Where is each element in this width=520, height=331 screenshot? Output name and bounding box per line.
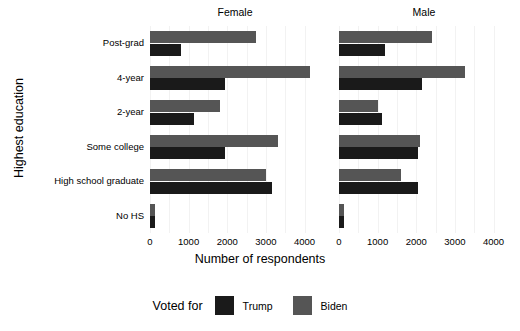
bar-female-some-college-trump xyxy=(150,147,225,159)
bar-female-some-college-biden xyxy=(150,135,278,147)
bar-male-some-college-biden xyxy=(339,135,420,147)
grid-line xyxy=(378,26,379,233)
bar-female-4-year-biden xyxy=(150,66,310,78)
grid-line xyxy=(208,26,209,233)
bar-female-2-year-trump xyxy=(150,113,194,125)
bar-male-2-year-biden xyxy=(339,100,378,112)
x-tick-label: 4000 xyxy=(474,236,514,247)
facet-title-male: Male xyxy=(339,6,509,22)
legend-item-biden[interactable]: Biden xyxy=(293,296,360,315)
bar-female-2-year-biden xyxy=(150,100,220,112)
x-tick-label: 1000 xyxy=(358,236,398,247)
panel-male xyxy=(339,26,509,233)
bar-male-4-year-trump xyxy=(339,78,422,90)
legend-swatch-trump xyxy=(215,296,234,315)
y-tick-label: 2-year xyxy=(117,106,144,117)
x-tick-label: 1000 xyxy=(169,236,209,247)
chart-legend: Voted for TrumpBiden xyxy=(0,296,520,315)
grid-line xyxy=(285,26,286,233)
y-tick-label: Post-grad xyxy=(103,37,144,48)
x-tick-label: 2000 xyxy=(207,236,247,247)
legend-label-trump: Trump xyxy=(243,300,273,312)
y-axis-tick-labels: Post-grad4-year2-yearSome collegeHigh sc… xyxy=(18,0,144,331)
panel-female xyxy=(150,26,320,233)
bar-female-high-school-graduate-biden xyxy=(150,169,266,181)
chart-figure: Highest education Post-grad4-year2-yearS… xyxy=(0,0,520,331)
bar-male-2-year-trump xyxy=(339,113,382,125)
bar-female-post-grad-trump xyxy=(150,44,181,56)
y-tick-label: 4-year xyxy=(117,72,144,83)
grid-line xyxy=(474,26,475,233)
grid-line xyxy=(339,26,340,233)
bar-female-post-grad-biden xyxy=(150,31,256,43)
legend-item-trump[interactable]: Trump xyxy=(215,296,285,315)
grid-line xyxy=(358,26,359,233)
bar-female-4-year-trump xyxy=(150,78,225,90)
bar-female-high-school-graduate-trump xyxy=(150,182,272,194)
grid-line xyxy=(150,26,151,233)
grid-line xyxy=(305,26,306,233)
grid-line xyxy=(397,26,398,233)
x-tick-label: 3000 xyxy=(435,236,475,247)
x-axis-title: Number of respondents xyxy=(0,252,520,266)
grid-line xyxy=(455,26,456,233)
grid-line xyxy=(436,26,437,233)
grid-line xyxy=(169,26,170,233)
bar-male-4-year-biden xyxy=(339,66,465,78)
bar-male-some-college-trump xyxy=(339,147,418,159)
bar-female-no-hs-trump xyxy=(150,216,155,228)
bar-male-high-school-graduate-biden xyxy=(339,169,401,181)
y-tick-label: No HS xyxy=(116,210,144,221)
x-tick-label: 0 xyxy=(319,236,359,247)
grid-line xyxy=(266,26,267,233)
y-tick-label: Some college xyxy=(86,141,144,152)
bar-male-post-grad-trump xyxy=(339,44,385,56)
legend-title: Voted for xyxy=(153,299,203,313)
x-tick-label: 0 xyxy=(130,236,170,247)
grid-line xyxy=(247,26,248,233)
legend-swatch-biden xyxy=(293,296,312,315)
grid-line xyxy=(416,26,417,233)
bar-male-no-hs-trump xyxy=(339,216,344,228)
facet-title-female: Female xyxy=(150,6,320,22)
y-tick-label: High school graduate xyxy=(54,175,144,186)
bar-female-no-hs-biden xyxy=(150,204,155,216)
legend-label-biden: Biden xyxy=(321,300,348,312)
bar-male-post-grad-biden xyxy=(339,31,432,43)
x-tick-label: 3000 xyxy=(246,236,286,247)
bar-male-no-hs-biden xyxy=(339,204,344,216)
grid-line xyxy=(227,26,228,233)
bar-male-high-school-graduate-trump xyxy=(339,182,418,194)
grid-line xyxy=(494,26,495,233)
grid-line xyxy=(189,26,190,233)
x-tick-label: 2000 xyxy=(396,236,436,247)
